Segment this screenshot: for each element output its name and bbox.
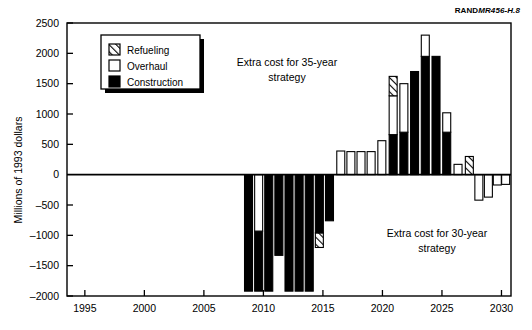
- y-tick-label: 500: [41, 138, 59, 150]
- bar-group: [347, 152, 355, 175]
- bar-segment-overhaul: [475, 175, 483, 200]
- bar-segment-refueling: [389, 76, 397, 95]
- bar-segment-overhaul: [484, 175, 492, 197]
- x-tick-label: 2020: [371, 302, 395, 314]
- bar-group: [389, 76, 397, 174]
- x-tick-label: 2025: [430, 302, 454, 314]
- y-tick-label: –500: [36, 199, 60, 211]
- bar-segment-construction: [400, 132, 408, 174]
- bar-segment-construction: [255, 231, 263, 291]
- bar-group: [367, 152, 375, 175]
- bar-group: [400, 84, 408, 175]
- bar-group: [378, 141, 386, 175]
- bar-segment-construction: [275, 175, 283, 256]
- x-tick-label: 2015: [311, 302, 335, 314]
- bar-group: [265, 175, 273, 291]
- y-tick-label: –1500: [30, 259, 59, 271]
- bar-group: [475, 175, 483, 200]
- chart-legend: RefuelingOverhaulConstruction: [101, 35, 204, 93]
- bar-group: [502, 175, 510, 185]
- y-tick-label: 2500: [36, 17, 60, 29]
- y-tick-label: 2000: [36, 47, 60, 59]
- bar-segment-construction: [421, 56, 429, 174]
- bar-segment-construction: [432, 56, 440, 174]
- bar-segment-construction: [315, 175, 323, 233]
- bar-segment-construction: [295, 175, 303, 291]
- bar-segment-overhaul: [367, 152, 375, 175]
- bar-segment-overhaul: [389, 96, 397, 135]
- chart-figure: RANDMR456-H.8 19952000200520102015202020…: [0, 0, 532, 330]
- y-tick-label: 1000: [36, 108, 60, 120]
- y-tick-label: 1500: [36, 77, 60, 89]
- bar-segment-overhaul: [378, 141, 386, 175]
- bar-segment-construction: [285, 175, 293, 291]
- bar-chart: 19952000200520102015202020252030 –2000–1…: [0, 0, 532, 330]
- bar-segment-refueling: [315, 233, 323, 248]
- bar-group: [337, 151, 345, 175]
- bar-segment-overhaul: [502, 175, 510, 185]
- annotation-35year-line2: strategy: [268, 71, 306, 83]
- annotation-30year-line1: Extra cost for 30-year: [387, 227, 488, 239]
- bar-group: [245, 175, 253, 291]
- x-tick-label: 2000: [133, 302, 157, 314]
- rand-doc-id: MR456-H.8: [478, 6, 520, 15]
- y-axis-title: Millions of 1993 dollars: [12, 117, 24, 224]
- bar-segment-construction: [265, 175, 273, 291]
- bar-segment-construction: [411, 72, 419, 175]
- x-tick-label: 2030: [490, 302, 514, 314]
- bar-segment-construction: [443, 132, 451, 174]
- rand-brand: RAND: [455, 6, 479, 15]
- legend-swatch-overhaul: [109, 60, 120, 71]
- bar-group: [285, 175, 293, 291]
- annotation-35year-line1: Extra cost for 35-year: [237, 56, 338, 68]
- y-tick-label: –1000: [30, 229, 59, 241]
- bar-group: [454, 164, 462, 174]
- bar-group: [315, 175, 323, 248]
- rand-credit: RANDMR456-H.8: [455, 6, 520, 15]
- bar-segment-construction: [305, 175, 313, 291]
- bar-group: [305, 175, 313, 291]
- bar-segment-overhaul: [443, 113, 451, 132]
- bar-group: [493, 175, 501, 185]
- bar-segment-construction: [389, 135, 397, 175]
- legend-label-overhaul: Overhaul: [127, 61, 168, 72]
- x-tick-label: 2010: [252, 302, 276, 314]
- legend-label-refueling: Refueling: [127, 45, 169, 56]
- bar-group: [255, 175, 263, 291]
- bar-group: [411, 72, 419, 175]
- bar-segment-refueling: [465, 156, 473, 174]
- y-tick-label: –2000: [30, 290, 59, 302]
- y-tick-label: 0: [53, 168, 59, 180]
- legend-swatch-refueling: [109, 44, 120, 55]
- annotation-30year-line2: strategy: [418, 242, 456, 254]
- bar-group: [432, 56, 440, 174]
- bar-group: [443, 113, 451, 175]
- bar-segment-construction: [245, 175, 253, 291]
- bar-group: [325, 175, 333, 221]
- bar-group: [484, 175, 492, 197]
- bar-segment-overhaul: [454, 164, 462, 174]
- bar-segment-overhaul: [493, 175, 501, 185]
- legend-label-construction: Construction: [127, 77, 183, 88]
- bar-group: [275, 175, 283, 256]
- bar-segment-construction: [325, 175, 333, 221]
- bar-group: [421, 35, 429, 175]
- bar-segment-overhaul: [400, 84, 408, 133]
- bar-segment-overhaul: [421, 35, 429, 56]
- bar-segment-overhaul: [357, 152, 365, 175]
- bar-segment-overhaul: [337, 151, 345, 175]
- x-tick-label: 2005: [192, 302, 216, 314]
- bar-segment-overhaul: [347, 152, 355, 175]
- bar-group: [465, 156, 473, 174]
- bar-group: [295, 175, 303, 291]
- legend-swatch-construction: [109, 76, 120, 87]
- x-tick-label: 1995: [73, 302, 97, 314]
- bar-group: [357, 152, 365, 175]
- bar-segment-overhaul: [255, 175, 263, 231]
